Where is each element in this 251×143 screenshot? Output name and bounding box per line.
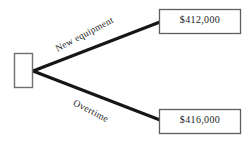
- outcome-value-top: $412,000: [159, 14, 241, 25]
- decision-node-rect[interactable]: [15, 54, 33, 88]
- decision-tree-diagram: $412,000 $416,000 New equipment Overtime: [0, 0, 251, 143]
- outcome-value-bottom: $416,000: [159, 114, 241, 125]
